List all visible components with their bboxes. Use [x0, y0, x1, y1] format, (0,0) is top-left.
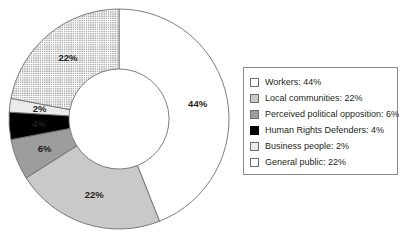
slice-value-label: 2% [33, 103, 47, 114]
legend-item-workers: Workers: 44% [250, 74, 392, 90]
black-swatch-icon [250, 126, 259, 135]
legend-label: Human Rights Defenders: 4% [265, 125, 384, 136]
legend-item-general-public: General public: 22% [250, 154, 392, 170]
slice-value-label: 6% [38, 143, 52, 154]
white-swatch-icon [250, 78, 259, 87]
legend-label: Local communities: 22% [265, 93, 363, 104]
legend-item-business-people: Business people: 2% [250, 138, 392, 154]
light-medium-gray-swatch-icon [250, 94, 259, 103]
dotted-pattern-swatch-icon [250, 158, 259, 167]
slice-value-label: 44% [188, 98, 208, 109]
legend-label: Workers: 44% [265, 77, 321, 88]
slice-value-label: 4% [32, 118, 46, 129]
very-light-gray-swatch-icon [250, 142, 259, 151]
donut-chart-svg: 44%22%6%4%2%22% [0, 0, 240, 239]
legend-label: Business people: 2% [265, 141, 349, 152]
legend-item-human-rights-defenders: Human Rights Defenders: 4% [250, 122, 392, 138]
donut-chart: 44%22%6%4%2%22% [0, 0, 240, 239]
slice-value-label: 22% [58, 52, 78, 63]
legend-label: Perceived political opposition: 6% [265, 109, 399, 120]
legend-item-perceived-political-opposition: Perceived political opposition: 6% [250, 106, 392, 122]
legend-item-local-communities: Local communities: 22% [250, 90, 392, 106]
slice-value-label: 22% [85, 189, 105, 200]
legend-label: General public: 22% [265, 157, 346, 168]
legend: Workers: 44% Local communities: 22% Perc… [243, 67, 398, 175]
dark-gray-swatch-icon [250, 110, 259, 119]
